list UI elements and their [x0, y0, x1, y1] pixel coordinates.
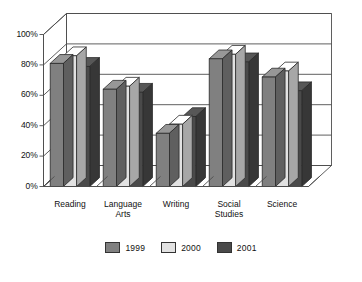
y-axis-tick-label: 40% [21, 120, 37, 130]
legend-item-2001[interactable]: 2001 [217, 242, 257, 253]
y-axis-tick-label: 0% [26, 181, 38, 191]
chart-legend: 199920002001 [0, 242, 362, 253]
category-label-line2: Studies [189, 209, 269, 219]
legend-swatch-icon [105, 242, 120, 253]
category-label-line1: Science [242, 199, 322, 209]
x-axis-category-label: Science [242, 199, 322, 209]
y-axis-tick-label: 100% [17, 29, 38, 39]
y-axis-tick-label: 60% [21, 89, 37, 99]
legend-label: 1999 [125, 243, 145, 253]
legend-item-2000[interactable]: 2000 [161, 242, 201, 253]
y-axis-tick-label: 80% [21, 59, 37, 69]
chart-canvas [0, 0, 362, 282]
y-axis-tick-label: 20% [21, 150, 37, 160]
legend-swatch-icon [217, 242, 232, 253]
bar-chart-figure: 0%20%40%60%80%100%ReadingLanguageArtsWri… [0, 0, 362, 282]
bar-science-1999 [262, 68, 285, 186]
bar-reading-1999 [50, 55, 73, 187]
legend-label: 2001 [237, 243, 257, 253]
bar-language-arts-1999 [103, 80, 126, 186]
category-label-line2: Arts [83, 209, 163, 219]
legend-label: 2000 [181, 243, 201, 253]
legend-item-1999[interactable]: 1999 [105, 242, 145, 253]
legend-swatch-icon [161, 242, 176, 253]
bar-social-studies-1999 [209, 50, 232, 187]
axis-depth-connector [44, 14, 67, 35]
